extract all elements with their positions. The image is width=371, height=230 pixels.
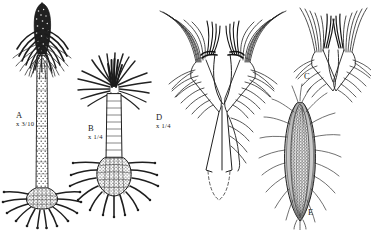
figure-a-column [36, 56, 48, 190]
figure-b-scale: x 1/4 [88, 133, 103, 141]
figure-e-label: E [308, 208, 314, 217]
plate-drawing [0, 0, 371, 230]
illustration-plate: A x 3/10 B x 1/4 C D x 1/4 E [0, 0, 371, 230]
figure-d-label: D x 1/4 [156, 113, 171, 130]
figure-a-label: A x 3/10 [16, 111, 34, 128]
figure-c-letter: C [304, 72, 310, 81]
figure-b-column [106, 94, 122, 160]
figure-d-letter: D [156, 113, 171, 122]
figure-e-letter: E [308, 208, 314, 217]
figure-c-label: C [304, 72, 310, 81]
figure-b-label: B x 1/4 [88, 124, 103, 141]
figure-a-scale: x 3/10 [16, 120, 34, 128]
figure-a-base [26, 188, 57, 209]
figure-b-letter: B [88, 124, 103, 133]
figure-a-letter: A [16, 111, 34, 120]
figure-d-scale: x 1/4 [156, 122, 171, 130]
